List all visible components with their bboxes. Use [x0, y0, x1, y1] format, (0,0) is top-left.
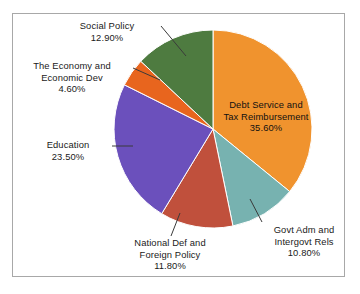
slice-label-education: Education 23.50%	[18, 139, 118, 162]
slice-label-name-line1: National Def and	[134, 237, 205, 248]
slice-label-name-line2: Tax Reimbursement	[202, 111, 330, 123]
slice-label-national-def-and-foreign-policy: National Def and Foreign Policy 11.80%	[104, 237, 236, 272]
slice-label-name-line1: Debt Service and	[229, 99, 303, 110]
slice-label-social-policy: Social Policy 12.90%	[52, 20, 162, 43]
slice-label-value: 11.80%	[104, 260, 236, 272]
slice-label-debt-service-and-tax-reimbursement: Debt Service and Tax Reimbursement 35.60…	[202, 99, 330, 134]
slice-label-value: 10.80%	[258, 247, 350, 259]
slice-label-name: Education	[47, 139, 90, 150]
slice-label-name-line2: Intergovt Rels	[258, 236, 350, 248]
slice-label-govt-adm-and-intergovt-rels: Govt Adm and Intergovt Rels 10.80%	[258, 224, 350, 259]
slice-label-name: Social Policy	[80, 20, 134, 31]
slice-label-value: 4.60%	[8, 83, 136, 95]
slice-label-name-line1: Govt Adm and	[274, 224, 335, 235]
slice-label-value: 35.60%	[202, 122, 330, 134]
slice-label-name-line2: Foreign Policy	[104, 249, 236, 261]
slice-label-name-line1: The Economy and	[33, 60, 111, 71]
slice-label-value: 12.90%	[52, 32, 162, 44]
slice-label-name-line2: Economic Dev	[8, 72, 136, 84]
slice-label-the-economy-and-economic-dev: The Economy and Economic Dev 4.60%	[8, 60, 136, 95]
slice-label-value: 23.50%	[18, 151, 118, 163]
